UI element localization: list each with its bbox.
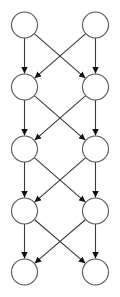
node-r2c1	[12, 74, 38, 100]
node-r5c1	[12, 259, 38, 285]
node-r1c1	[12, 12, 38, 38]
node-r4c1	[12, 198, 38, 224]
node-r1c2	[83, 12, 109, 38]
node-r5c2	[83, 259, 109, 285]
node-r3c1	[12, 136, 38, 162]
node-r4c2	[83, 198, 109, 224]
node-r2c2	[83, 74, 109, 100]
layered-graph-diagram	[0, 0, 120, 297]
node-r3c2	[83, 136, 109, 162]
